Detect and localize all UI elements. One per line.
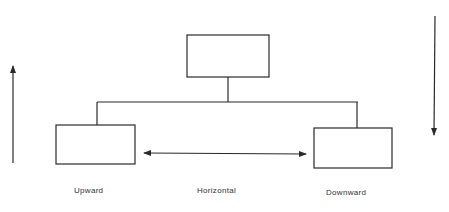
left-node-box	[56, 125, 135, 164]
top-node-box	[187, 35, 269, 77]
downward-arrow-icon	[434, 16, 435, 135]
downward-label: Downward	[326, 188, 366, 197]
diagram-canvas	[0, 0, 449, 212]
horizontal-arrow-icon	[144, 153, 306, 154]
right-node-box	[314, 128, 392, 168]
hierarchy-connector	[97, 77, 358, 128]
horizontal-label: Horizontal	[197, 186, 236, 195]
upward-label: Upward	[74, 186, 103, 195]
